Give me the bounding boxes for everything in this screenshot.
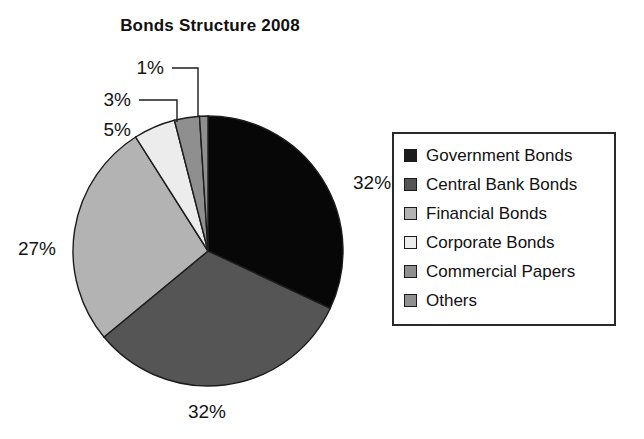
legend-item[interactable]: Commercial Papers <box>404 257 610 286</box>
legend-item[interactable]: Central Bank Bonds <box>404 170 610 199</box>
legend-list: Government BondsCentral Bank BondsFinanc… <box>404 141 610 315</box>
pie-slice-value-label: 27% <box>18 238 56 259</box>
legend-swatch-icon <box>404 236 417 249</box>
pie-slice-value-label: 3% <box>104 89 132 110</box>
pie-slice-value-label: 32% <box>188 401 226 422</box>
pie-slice-value-label: 5% <box>104 119 132 140</box>
legend: Government BondsCentral Bank BondsFinanc… <box>392 132 616 326</box>
pie-slice-group <box>73 116 343 386</box>
legend-item[interactable]: Corporate Bonds <box>404 228 610 257</box>
legend-item-label: Government Bonds <box>426 147 572 165</box>
legend-item[interactable]: Financial Bonds <box>404 199 610 228</box>
legend-swatch-icon <box>404 149 417 162</box>
pie-leader-line <box>172 68 198 117</box>
legend-item[interactable]: Others <box>404 286 610 315</box>
legend-swatch-icon <box>404 178 417 191</box>
legend-swatch-icon <box>404 265 417 278</box>
legend-item[interactable]: Government Bonds <box>404 141 610 170</box>
legend-item-label: Others <box>426 292 477 310</box>
legend-item-label: Central Bank Bonds <box>426 176 577 194</box>
legend-swatch-icon <box>404 207 417 220</box>
pie-leader-line <box>139 100 177 122</box>
legend-item-label: Commercial Papers <box>426 263 575 281</box>
pie-slice-value-label: 32% <box>353 172 391 193</box>
legend-swatch-icon <box>404 294 417 307</box>
legend-item-label: Financial Bonds <box>426 205 547 223</box>
pie-chart-figure: Bonds Structure 2008 32%32%27%5%3%1% Gov… <box>0 0 644 439</box>
legend-item-label: Corporate Bonds <box>426 234 555 252</box>
pie-slice-value-label: 1% <box>137 57 165 78</box>
